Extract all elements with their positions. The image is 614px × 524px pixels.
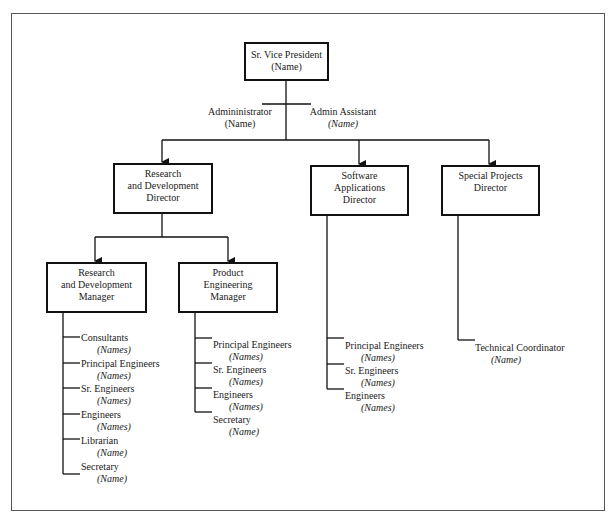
report-name: (Names) bbox=[213, 401, 263, 413]
report-name: (Names) bbox=[345, 377, 398, 389]
list-item: Secretary (Name) bbox=[81, 461, 127, 485]
report-name: (Names) bbox=[81, 370, 160, 382]
list-item: Engineers (Names) bbox=[213, 389, 263, 413]
admin-assistant-label: Admin Assistant (Name) bbox=[298, 106, 388, 130]
report-name: (Name) bbox=[81, 473, 127, 485]
report-name: (Names) bbox=[81, 395, 134, 407]
rd-manager-box: Research and Development Manager bbox=[46, 262, 147, 313]
report-title: Principal Engineers bbox=[213, 339, 292, 351]
admin-assistant-title: Admin Assistant bbox=[298, 106, 388, 118]
svp-name: (Name) bbox=[246, 61, 327, 73]
rd-manager-line1: Research bbox=[48, 267, 145, 279]
report-title: Sr. Engineers bbox=[345, 365, 398, 377]
report-title: Engineers bbox=[213, 389, 263, 401]
report-name: (Names) bbox=[81, 421, 131, 433]
list-item: Sr. Engineers (Names) bbox=[213, 364, 266, 388]
list-item: Technical Coordinator (Name) bbox=[475, 342, 565, 366]
list-item: Principal Engineers (Names) bbox=[81, 358, 160, 382]
svp-box: Sr. Vice President (Name) bbox=[244, 42, 329, 81]
report-title: Secretary bbox=[81, 461, 127, 473]
rd-manager-line3: Manager bbox=[48, 291, 145, 303]
rd-director-box: Research and Development Director bbox=[113, 163, 213, 214]
list-item: Sr. Engineers (Names) bbox=[345, 365, 398, 389]
report-title: Librarian bbox=[81, 435, 127, 447]
report-title: Principal Engineers bbox=[81, 358, 160, 370]
administrator-title: Admininistrator bbox=[200, 106, 280, 118]
svp-title: Sr. Vice President bbox=[246, 49, 327, 61]
pe-manager-line1: Product bbox=[180, 267, 276, 279]
list-item: Engineers (Names) bbox=[345, 390, 395, 414]
report-name: (Name) bbox=[475, 354, 565, 366]
list-item: Principal Engineers (Names) bbox=[213, 339, 292, 363]
report-name: (Names) bbox=[213, 376, 266, 388]
sw-director-line3: Director bbox=[312, 194, 407, 206]
list-item: Consultants (Names) bbox=[81, 332, 131, 356]
sp-director-line2: Director bbox=[443, 182, 538, 194]
report-title: Consultants bbox=[81, 332, 131, 344]
rd-director-line2: and Development bbox=[115, 180, 211, 192]
pe-manager-line2: Engineering bbox=[180, 279, 276, 291]
list-item: Secretary (Name) bbox=[213, 414, 259, 438]
administrator-name: (Name) bbox=[200, 118, 280, 130]
rd-director-line1: Research bbox=[115, 168, 211, 180]
report-name: (Name) bbox=[81, 447, 127, 459]
sw-director-line2: Applications bbox=[312, 182, 407, 194]
rd-manager-line2: and Development bbox=[48, 279, 145, 291]
report-title: Sr. Engineers bbox=[81, 383, 134, 395]
administrator-label: Admininistrator (Name) bbox=[200, 106, 280, 130]
report-title: Technical Coordinator bbox=[475, 342, 565, 354]
report-title: Engineers bbox=[345, 390, 395, 402]
admin-assistant-name: (Name) bbox=[298, 118, 388, 130]
sp-director-line1: Special Projects bbox=[443, 170, 538, 182]
report-title: Principal Engineers bbox=[345, 340, 424, 352]
report-name: (Names) bbox=[81, 344, 131, 356]
pe-manager-box: Product Engineering Manager bbox=[178, 262, 278, 313]
report-name: (Names) bbox=[213, 351, 292, 363]
sw-director-box: Software Applications Director bbox=[310, 165, 409, 216]
rd-director-line3: Director bbox=[115, 192, 211, 204]
report-title: Secretary bbox=[213, 414, 259, 426]
report-name: (Names) bbox=[345, 352, 424, 364]
list-item: Librarian (Name) bbox=[81, 435, 127, 459]
report-name: (Names) bbox=[345, 402, 395, 414]
sp-director-box: Special Projects Director bbox=[441, 165, 540, 216]
list-item: Engineers (Names) bbox=[81, 409, 131, 433]
pe-manager-line3: Manager bbox=[180, 291, 276, 303]
report-name: (Name) bbox=[213, 426, 259, 438]
list-item: Principal Engineers (Names) bbox=[345, 340, 424, 364]
report-title: Sr. Engineers bbox=[213, 364, 266, 376]
sw-director-line1: Software bbox=[312, 170, 407, 182]
report-title: Engineers bbox=[81, 409, 131, 421]
list-item: Sr. Engineers (Names) bbox=[81, 383, 134, 407]
